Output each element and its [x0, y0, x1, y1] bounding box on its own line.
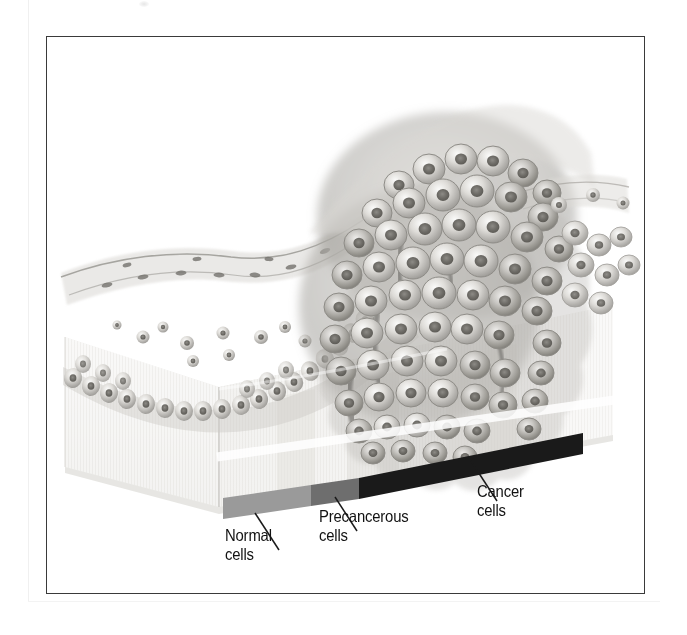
label-normal-cells: Normal cells: [225, 526, 272, 564]
label-cancer-cells: Cancer cells: [477, 482, 524, 520]
figure-frame: Normal cells Precancerous cells Cancer c…: [46, 36, 645, 594]
label-precancerous-cells: Precancerous cells: [319, 507, 408, 545]
scan-artifact-left-edge: [28, 0, 29, 602]
scan-artifact-bottom-edge: [28, 601, 660, 602]
stromal-cells: [113, 321, 312, 368]
scan-artifact-speck: [139, 1, 149, 7]
page-canvas: Normal cells Precancerous cells Cancer c…: [0, 0, 687, 635]
